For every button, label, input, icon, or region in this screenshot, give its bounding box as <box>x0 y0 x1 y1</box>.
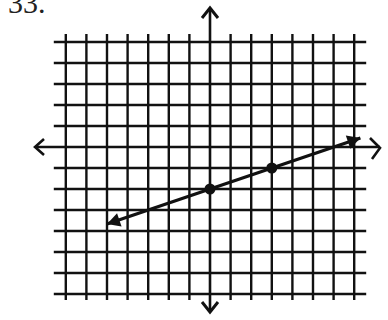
x-axis-right-arrow-icon <box>370 138 380 159</box>
coordinate-plane <box>0 0 388 320</box>
marked-point <box>266 163 277 174</box>
marked-point <box>205 184 216 195</box>
